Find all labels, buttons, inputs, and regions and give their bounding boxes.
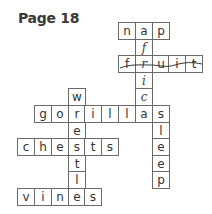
crossword-cell: e <box>152 138 170 156</box>
crossword-cell: c <box>135 88 153 106</box>
crossword-cell: p <box>152 22 170 40</box>
crossword-cell: a <box>135 22 153 40</box>
crossword-cell: n <box>118 22 136 40</box>
crossword-cell: h <box>34 138 52 156</box>
crossword-cell: c <box>17 138 35 156</box>
crossword-cell: v <box>17 188 35 206</box>
crossword-cell: s <box>152 105 170 123</box>
crossword-cell: g <box>34 105 52 123</box>
crossword-cell: i <box>84 105 102 123</box>
crossword-grid: napffruitiwcgorillaselchestsetelpvines <box>0 0 212 214</box>
crossword-cell: i <box>34 188 52 206</box>
crossword-cell: l <box>101 105 119 123</box>
crossword-cell: n <box>51 188 69 206</box>
handwritten-strike-line <box>120 61 202 69</box>
crossword-cell: p <box>152 171 170 189</box>
crossword-cell: o <box>51 105 69 123</box>
crossword-cell: s <box>101 138 119 156</box>
crossword-cell: s <box>84 188 102 206</box>
crossword-cell: t <box>84 138 102 156</box>
crossword-cell: l <box>118 105 136 123</box>
crossword-cell: w <box>68 88 86 106</box>
crossword-cell: l <box>68 171 86 189</box>
crossword-cell: a <box>135 105 153 123</box>
crossword-cell: e <box>51 138 69 156</box>
